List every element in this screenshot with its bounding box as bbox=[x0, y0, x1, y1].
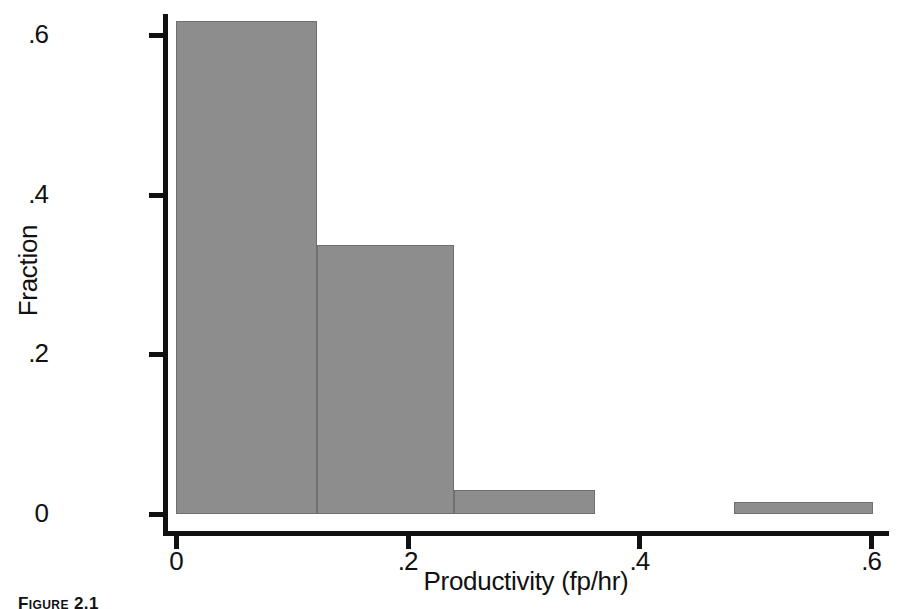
histogram-bar bbox=[454, 490, 595, 514]
y-tick-mark bbox=[149, 512, 163, 517]
x-axis-title: Productivity (fp/hr) bbox=[163, 566, 889, 597]
y-tick-mark bbox=[149, 352, 163, 357]
y-tick-label: 0 bbox=[35, 500, 48, 526]
x-axis-line bbox=[163, 531, 889, 536]
figure-container: 0.2.4.6 0.2.4.6 Fraction Productivity (f… bbox=[0, 0, 900, 609]
y-tick-label: .6 bbox=[28, 21, 48, 47]
histogram-bar bbox=[734, 502, 873, 514]
y-axis-line bbox=[163, 14, 168, 536]
y-tick-mark bbox=[149, 33, 163, 38]
figure-caption: Figure 2.1 bbox=[18, 594, 99, 609]
y-tick-mark bbox=[149, 193, 163, 198]
histogram-bar bbox=[317, 245, 454, 514]
histogram-bar bbox=[176, 21, 317, 514]
y-axis-title: Fraction bbox=[13, 191, 44, 351]
